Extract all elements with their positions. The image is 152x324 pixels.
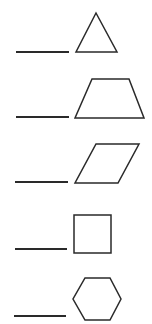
hexagon-icon <box>0 0 152 324</box>
shape-naming-worksheet <box>0 0 152 324</box>
